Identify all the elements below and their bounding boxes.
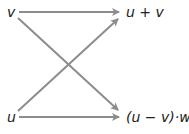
- node-u: u: [7, 110, 16, 124]
- node-prod: (u − v)·w: [126, 110, 189, 124]
- node-sum: u + v: [126, 5, 164, 19]
- node-v: v: [7, 5, 15, 19]
